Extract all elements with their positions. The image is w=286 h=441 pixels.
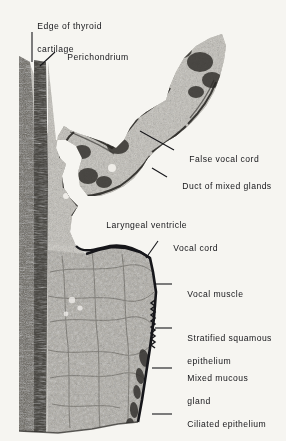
label-duct-of-mixed-glands: Duct of mixed glands	[171, 170, 272, 204]
label-line-1: Mixed mucous	[187, 373, 248, 383]
label-line-1: Stratified squamous	[187, 333, 272, 343]
label-line-1: False vocal cord	[189, 154, 259, 164]
label-line-2: gland	[187, 396, 210, 406]
label-vocal-cord: Vocal cord	[162, 232, 218, 266]
label-line-1: Ciliated epithelium	[187, 419, 266, 429]
label-line-1: Duct of mixed glands	[182, 181, 271, 191]
label-ciliated-epithelium: Ciliated epithelium	[176, 408, 266, 441]
label-line-1: Perichondrium	[67, 52, 128, 62]
larynx-histology-figure: Edge of thyroid cartilage Perichondrium …	[0, 0, 286, 441]
label-line-1: Edge of thyroid	[37, 21, 102, 31]
label-vocal-muscle: Vocal muscle	[176, 278, 243, 312]
label-line-1: Laryngeal ventricle	[106, 220, 187, 230]
label-line-1: Vocal cord	[173, 243, 218, 253]
label-line-1: Vocal muscle	[187, 289, 243, 299]
label-perichondrium: Perichondrium	[56, 41, 129, 75]
